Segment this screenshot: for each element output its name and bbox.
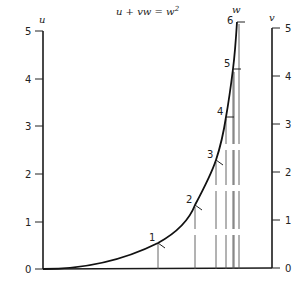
w-tick	[216, 160, 223, 165]
equation-title: u + vw = w2	[116, 5, 180, 17]
w-point-label: 4	[217, 106, 223, 117]
w-point-label: 5	[224, 58, 230, 69]
v-tick-label: 2	[285, 167, 291, 178]
w-point-label: 1	[149, 232, 155, 243]
u-tick-label: 4	[25, 74, 31, 85]
v-tick-label: 1	[285, 215, 291, 226]
u-tick-label: 3	[25, 121, 31, 132]
nomogram: u + vw = w2 u 012345 v 012345 w 123456	[0, 0, 308, 286]
u-tick-label: 1	[25, 217, 31, 228]
w-point-label: 6	[227, 15, 233, 26]
v-axis-label: v	[269, 12, 275, 23]
u-axis-label: u	[39, 14, 45, 25]
u-tick-label: 0	[25, 264, 31, 275]
baseline	[43, 268, 272, 269]
w-point-label: 3	[207, 149, 213, 160]
u-axis: u 012345	[25, 14, 45, 275]
u-tick-label: 5	[25, 26, 31, 37]
w-tick	[158, 243, 165, 248]
v-tick-label: 3	[285, 119, 291, 130]
w-tick	[195, 205, 202, 210]
v-tick-label: 4	[285, 71, 291, 82]
v-tick-label: 0	[285, 263, 291, 274]
w-curve	[43, 22, 237, 269]
u-tick-label: 2	[25, 169, 31, 180]
w-axis-label: w	[232, 4, 241, 15]
v-tick-label: 5	[285, 23, 291, 34]
nomogram-canvas: u + vw = w2 u 012345 v 012345 w 123456	[0, 0, 308, 286]
w-point-label: 2	[186, 194, 192, 205]
v-axis: v 012345	[269, 12, 291, 274]
w-scale: w 123456	[43, 4, 245, 269]
